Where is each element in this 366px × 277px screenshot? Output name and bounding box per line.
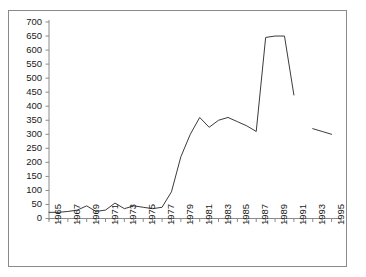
y-tick-label: 0 [16,213,42,223]
y-tick-label: 450 [16,87,42,97]
y-axis-ticks [46,22,50,219]
y-tick-label: 650 [16,31,42,41]
y-tick-label: 100 [16,185,42,195]
x-tick-label: 1985 [241,203,251,224]
y-tick-label: 50 [16,199,42,209]
y-tick-label: 600 [16,45,42,55]
x-tick-label: 1975 [147,203,157,224]
x-tick-label: 1981 [204,203,214,224]
x-tick-label: 1977 [166,203,176,224]
y-tick-label: 700 [16,17,42,27]
x-tick-label: 1973 [128,203,138,224]
y-tick-label: 400 [16,101,42,111]
x-tick-label: 1965 [53,203,63,224]
y-tick-label: 500 [16,73,42,83]
y-tick-label: 250 [16,143,42,153]
chart-plot-area [0,0,366,277]
x-tick-label: 1995 [336,203,346,224]
x-tick-label: 1983 [223,203,233,224]
chart-container: 0501001502002503003504004505005506006507… [0,0,366,277]
x-tick-label: 1971 [110,203,120,224]
y-tick-label: 200 [16,157,42,167]
x-tick-label: 1993 [317,203,327,224]
x-tick-label: 1991 [298,203,308,224]
x-tick-label: 1967 [72,203,82,224]
y-tick-label: 300 [16,129,42,139]
x-tick-label: 1979 [185,203,195,224]
data-line-segment-2 [313,129,332,135]
x-tick-label: 1989 [279,203,289,224]
data-series-group [49,36,332,212]
x-tick-label: 1987 [260,203,270,224]
x-tick-label: 1969 [91,203,101,224]
y-tick-label: 550 [16,59,42,69]
y-axis [46,20,50,220]
y-tick-label: 350 [16,115,42,125]
data-line-main [49,36,294,212]
y-tick-label: 150 [16,171,42,181]
